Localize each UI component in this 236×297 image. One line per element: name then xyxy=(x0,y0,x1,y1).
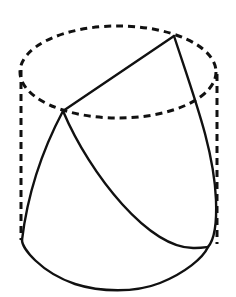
curve-b-right xyxy=(174,36,216,247)
bottom-arc xyxy=(22,240,208,290)
chord-a-b xyxy=(63,36,174,111)
curve-a-right xyxy=(63,111,208,248)
cylinder-cut-diagram xyxy=(0,0,236,297)
diagram-svg xyxy=(0,0,236,297)
curve-a-left xyxy=(22,111,63,240)
